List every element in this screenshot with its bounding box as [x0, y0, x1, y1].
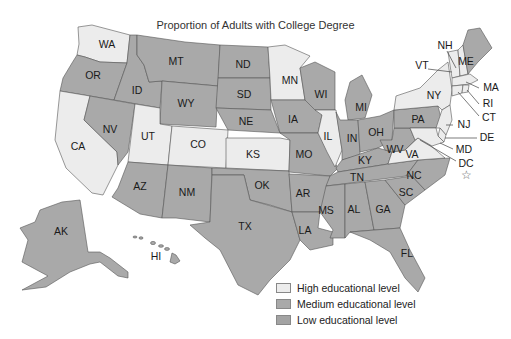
- label-mi: MI: [355, 101, 367, 113]
- label-nc: NC: [406, 169, 422, 181]
- label-ne: NE: [239, 115, 254, 127]
- label-la: LA: [299, 224, 312, 236]
- label-sd: SD: [237, 88, 252, 100]
- label-nd: ND: [235, 58, 251, 70]
- legend-label-medium: Medium educational level: [297, 298, 415, 310]
- label-pa: PA: [411, 113, 424, 125]
- legend-swatch-medium: [276, 299, 291, 309]
- label-wa: WA: [99, 38, 116, 50]
- us-choropleth-map: WA OR CA ID NV MT WY UT CO AZ NM ND SD N…: [0, 0, 511, 339]
- label-tx: TX: [238, 220, 251, 232]
- label-tn: TN: [350, 171, 364, 183]
- label-id: ID: [132, 84, 143, 96]
- state-ri[interactable]: [462, 85, 469, 93]
- label-mt: MT: [168, 55, 184, 67]
- label-nh: NH: [437, 39, 452, 51]
- label-dc: DC: [458, 157, 474, 169]
- label-nv: NV: [103, 123, 118, 135]
- label-ca: CA: [71, 140, 86, 152]
- label-ar: AR: [296, 187, 311, 199]
- label-va: VA: [405, 148, 418, 160]
- label-oh: OH: [368, 126, 384, 138]
- dc-star-icon: ☆: [461, 168, 472, 182]
- label-sc: SC: [399, 186, 414, 198]
- label-wv: WV: [387, 143, 404, 155]
- label-ut: UT: [141, 130, 156, 142]
- label-or: OR: [85, 69, 101, 81]
- state-ak[interactable]: [20, 200, 128, 290]
- label-ia: IA: [288, 113, 298, 125]
- legend: High educational level Medium educationa…: [276, 280, 415, 328]
- label-al: AL: [348, 203, 361, 215]
- label-fl: FL: [401, 247, 413, 259]
- leader-ri: [467, 90, 479, 104]
- state-me[interactable]: [463, 28, 492, 74]
- label-co: CO: [190, 138, 206, 150]
- label-nj: NJ: [458, 118, 471, 130]
- legend-swatch-low: [276, 315, 291, 325]
- label-in: IN: [347, 132, 358, 144]
- label-md: MD: [456, 143, 473, 155]
- leader-ct: [458, 92, 479, 116]
- legend-item-medium: Medium educational level: [276, 296, 415, 312]
- label-ri: RI: [483, 97, 494, 109]
- label-nm: NM: [179, 186, 195, 198]
- label-wi: WI: [315, 88, 328, 100]
- label-ms: MS: [318, 204, 334, 216]
- label-vt: VT: [415, 59, 429, 71]
- legend-item-high: High educational level: [276, 280, 415, 296]
- label-ks: KS: [246, 148, 260, 160]
- label-ky: KY: [358, 154, 372, 166]
- leader-md: [440, 143, 453, 149]
- label-ga: GA: [375, 203, 390, 215]
- label-ny: NY: [427, 89, 442, 101]
- label-mo: MO: [296, 148, 313, 160]
- state-mi[interactable]: [345, 75, 372, 120]
- label-mn: MN: [282, 74, 298, 86]
- label-hi: HI: [151, 250, 162, 262]
- state-ct[interactable]: [452, 85, 463, 96]
- label-il: IL: [324, 130, 333, 142]
- label-ct: CT: [482, 111, 497, 123]
- label-me: ME: [458, 55, 474, 67]
- legend-label-high: High educational level: [297, 282, 400, 294]
- legend-item-low: Low educational level: [276, 312, 415, 328]
- label-wy: WY: [178, 97, 195, 109]
- label-ak: AK: [54, 225, 68, 237]
- label-az: AZ: [133, 180, 147, 192]
- label-ok: OK: [254, 179, 269, 191]
- label-ma: MA: [483, 81, 499, 93]
- label-de: DE: [480, 131, 495, 143]
- legend-swatch-high: [276, 283, 291, 293]
- legend-label-low: Low educational level: [297, 314, 397, 326]
